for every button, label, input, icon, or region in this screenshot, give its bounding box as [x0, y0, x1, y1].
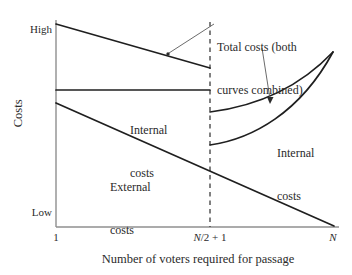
x-tick-midpoint-n: N: [193, 231, 200, 243]
x-tick-last: N: [324, 231, 342, 244]
external-costs-label: External costs: [110, 152, 151, 265]
y-tick-low: Low: [16, 206, 52, 219]
x-tick-midpoint: N/2 + 1: [178, 231, 242, 244]
x-tick-first: 1: [47, 231, 65, 244]
internal-costs-right-label-line1: Internal: [277, 146, 314, 160]
total-costs-annotation: Total costs (both curves combined): [217, 12, 303, 125]
external-costs-label-line1: External: [110, 180, 151, 194]
x-tick-midpoint-rest: /2 + 1: [201, 231, 227, 243]
external-costs-label-line2: costs: [110, 223, 151, 237]
y-axis-title: Costs: [11, 83, 26, 143]
x-axis-title: Number of voters required for passage: [56, 252, 340, 267]
total-costs-annotation-line2: curves combined): [217, 83, 303, 97]
internal-costs-right-label: Internal costs: [277, 118, 314, 231]
internal-costs-right-label-line2: costs: [277, 189, 314, 203]
cost-of-collective-decision-making-chart: Costs High Low 1 N/2 + 1 N Number of vot…: [0, 0, 352, 275]
total-costs-annotation-line1: Total costs (both: [217, 40, 303, 54]
annotation-leader-left: [166, 24, 214, 56]
internal-costs-left-label-line1: Internal: [130, 123, 167, 137]
total-costs-left-curve: [56, 24, 210, 68]
y-tick-high: High: [16, 23, 52, 36]
